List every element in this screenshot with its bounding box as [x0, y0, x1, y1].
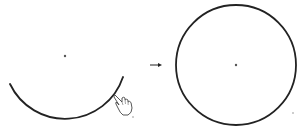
right-arrow-icon — [150, 63, 162, 67]
left-center-dot — [64, 55, 66, 57]
arc-to-circle-diagram — [0, 0, 303, 136]
arc-end-handle[interactable] — [122, 76, 124, 78]
partial-arc — [10, 77, 123, 119]
stray-dot — [132, 116, 133, 117]
right-panel — [176, 5, 296, 125]
left-panel — [9, 55, 124, 119]
stray-dot — [292, 112, 293, 113]
right-center-dot — [235, 64, 237, 66]
hand-pointer-icon — [114, 95, 132, 115]
arc-start-handle — [9, 83, 11, 85]
